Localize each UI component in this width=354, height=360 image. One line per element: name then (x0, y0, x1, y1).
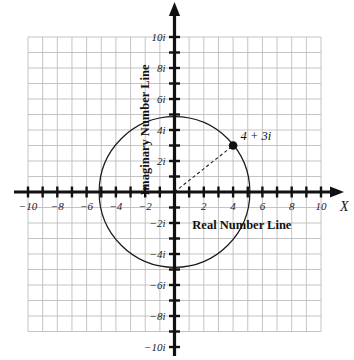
y-tick-label: 6i (157, 93, 166, 105)
x-tick-label: −4 (109, 200, 122, 212)
plotted-point-label: 4 + 3i (241, 129, 272, 143)
y-tick-label: 8i (157, 62, 166, 74)
x-tick-label: 2 (201, 200, 207, 212)
y-tick-label: −4i (150, 248, 166, 260)
plotted-point-marker (229, 141, 238, 150)
x-tick-label: 8 (289, 200, 295, 212)
y-tick-label: 2i (157, 155, 166, 167)
x-tick-label: 4 (230, 200, 236, 212)
y-axis-title: Imaginary Number Line (138, 64, 152, 195)
axes-group (14, 2, 344, 356)
x-tick-label: 10 (316, 200, 328, 212)
x-axis-title: Real Number Line (192, 218, 292, 232)
x-tick-label: −8 (51, 200, 64, 212)
y-tick-label: −10i (144, 341, 165, 353)
x-tick-labels: −10−8−6−4−2246810 (19, 200, 327, 212)
y-tick-label: −6i (150, 279, 166, 291)
x-axis-variable-letter: X (339, 199, 349, 214)
x-tick-label: −2 (139, 200, 152, 212)
x-tick-label: −10 (19, 200, 38, 212)
x-tick-label: −6 (80, 200, 93, 212)
complex-plane-figure: −10−8−6−4−2246810 10i8i6i4i2i−2i−4i−6i−8… (0, 0, 354, 360)
y-axis-arrowhead (169, 2, 180, 16)
x-axis-arrowhead (330, 186, 344, 197)
y-tick-label: 4i (157, 124, 166, 136)
x-tick-label: 6 (260, 200, 266, 212)
y-tick-label: −2i (150, 217, 166, 229)
y-tick-label: −8i (150, 310, 166, 322)
complex-plane-svg: −10−8−6−4−2246810 10i8i6i4i2i−2i−4i−6i−8… (0, 0, 354, 360)
y-tick-label: 10i (151, 31, 165, 43)
